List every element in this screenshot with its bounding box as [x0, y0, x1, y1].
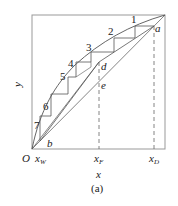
xw-tick-label: xW — [34, 152, 47, 166]
stage-label-1: 1 — [131, 13, 137, 25]
origin-label: O — [22, 152, 30, 164]
stage-label-4: 4 — [68, 57, 74, 69]
figure-caption: (a) — [91, 182, 104, 195]
x-axis-label: x — [95, 168, 101, 180]
stage-label-7: 7 — [34, 119, 40, 131]
y-axis-label: y — [11, 82, 23, 88]
stage-label-6: 6 — [43, 100, 49, 112]
stage-label-3: 3 — [86, 41, 92, 53]
stage-label-2: 2 — [108, 25, 114, 37]
xd-tick-label: xD — [148, 152, 159, 166]
mccabe-thiele-diagram: 1 2 3 4 5 6 7 a d e b O y xW xF xD x (a) — [0, 0, 178, 206]
diagonal-line — [32, 15, 165, 149]
point-d-label: d — [101, 60, 107, 72]
point-a-label: a — [155, 22, 161, 34]
stage-label-5: 5 — [60, 70, 66, 82]
point-e-label: e — [101, 79, 106, 91]
xf-tick-label: xF — [93, 152, 104, 166]
point-b-label: b — [47, 137, 53, 149]
